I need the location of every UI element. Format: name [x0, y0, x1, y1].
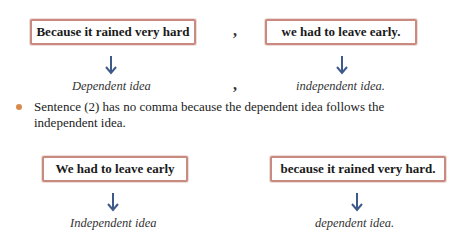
dependent-clause-text: Because it rained very hard: [36, 24, 189, 40]
down-arrow-icon: [106, 192, 120, 212]
down-arrow-icon: [350, 192, 364, 212]
independent-clause-box: we had to leave early.: [265, 19, 417, 45]
independent-idea-label: independent idea.: [296, 79, 385, 94]
dependent-idea-label-2: dependent idea.: [315, 216, 394, 231]
dependent-clause-text-2: because it rained very hard.: [281, 161, 436, 177]
label-comma: ,: [233, 76, 237, 94]
bullet-text: Sentence (2) has no comma because the de…: [34, 99, 434, 131]
dependent-clause-box-2: because it rained very hard.: [270, 156, 446, 182]
dependent-clause-box: Because it rained very hard: [30, 19, 196, 45]
independent-clause-box-2: We had to leave early: [42, 156, 188, 182]
independent-clause-text: we had to leave early.: [282, 24, 401, 40]
separator-comma: ,: [233, 22, 237, 40]
down-arrow-icon: [104, 55, 118, 75]
bullet-dot-icon: [16, 104, 22, 110]
independent-clause-text-2: We had to leave early: [55, 161, 174, 177]
down-arrow-icon: [335, 55, 349, 75]
dependent-idea-label: Dependent idea: [72, 79, 151, 94]
independent-idea-label-2: Independent idea: [70, 216, 156, 231]
